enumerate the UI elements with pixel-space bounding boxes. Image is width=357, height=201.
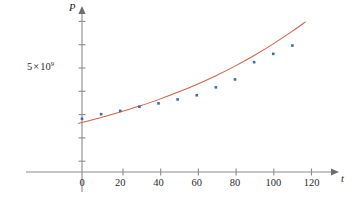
x-tick-label: 40 bbox=[153, 178, 164, 189]
x-tick-label: 0 bbox=[79, 178, 84, 189]
data-points-group bbox=[81, 44, 294, 120]
y-axis-arrow-icon bbox=[78, 6, 85, 14]
data-point bbox=[138, 105, 141, 108]
plot-canvas bbox=[0, 0, 357, 201]
data-point bbox=[195, 94, 198, 97]
x-tick-label: 60 bbox=[192, 178, 203, 189]
population-exponential-chart: P t 5×109 020406080100120 bbox=[0, 0, 357, 201]
y-axis-label: P bbox=[69, 3, 75, 14]
data-point bbox=[100, 113, 103, 116]
y-tick-exponent: 9 bbox=[51, 60, 54, 67]
x-axis-label: t bbox=[341, 174, 344, 185]
multiplication-sign-icon: × bbox=[32, 61, 40, 72]
x-tick-label: 100 bbox=[265, 178, 281, 189]
x-tick-label: 80 bbox=[230, 178, 241, 189]
data-point bbox=[253, 61, 256, 64]
exponential-fit-curve bbox=[78, 22, 306, 124]
data-point bbox=[291, 44, 294, 47]
data-point bbox=[272, 53, 275, 56]
x-tick-label: 120 bbox=[304, 178, 320, 189]
x-axis-arrow-icon bbox=[331, 168, 339, 175]
data-point bbox=[157, 102, 160, 105]
axes-group bbox=[26, 6, 339, 192]
data-point bbox=[176, 98, 179, 101]
data-point bbox=[119, 110, 122, 113]
data-point bbox=[81, 117, 84, 120]
y-tick-base: 10 bbox=[40, 61, 51, 72]
y-tick-label-5e9: 5×109 bbox=[27, 62, 54, 73]
x-tick-label: 20 bbox=[115, 178, 126, 189]
data-point bbox=[215, 86, 218, 89]
data-point bbox=[234, 78, 237, 81]
